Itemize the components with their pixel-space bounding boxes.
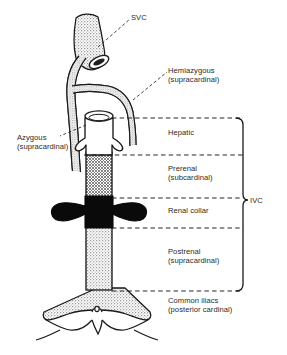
label-ivc: IVC [250, 196, 263, 205]
label-hemiazygous-line1: Hemiazygous [168, 66, 219, 75]
label-hemiazygous-line2: (supracardinal) [168, 75, 219, 84]
label-azygous-line2: (supracardinal) [17, 142, 68, 151]
label-common-iliacs-line2: (posterior cardinal) [168, 305, 232, 314]
label-svc: SVC [131, 13, 147, 22]
prerenal-segment [86, 152, 112, 198]
postrenal-segment [86, 222, 112, 290]
label-azygous: Azygous (supracardinal) [17, 133, 68, 152]
common-iliacs-segment [36, 288, 158, 340]
label-svc-line1: SVC [131, 13, 147, 22]
label-prerenal: Prerenal (subcardinal) [168, 164, 213, 183]
label-common-iliacs-line1: Common iliacs [168, 296, 232, 305]
label-common-iliacs: Common iliacs (posterior cardinal) [168, 296, 232, 315]
hepatic-segment [75, 111, 122, 155]
renal-collar-segment [51, 196, 146, 228]
label-hepatic-line1: Hepatic [168, 128, 194, 137]
label-ivc-line1: IVC [250, 196, 263, 205]
label-renal-collar: Renal collar [168, 206, 209, 215]
label-postrenal-line2: (supracardinal) [168, 256, 219, 265]
leader-hemiazygous [133, 72, 167, 100]
label-hemiazygous: Hemiazygous (supracardinal) [168, 66, 219, 85]
label-prerenal-line1: Prerenal [168, 164, 213, 173]
label-postrenal-line1: Postrenal [168, 247, 219, 256]
label-postrenal: Postrenal (supracardinal) [168, 247, 219, 266]
ivc-bracket [236, 118, 248, 291]
label-azygous-line1: Azygous [17, 133, 68, 142]
label-hepatic: Hepatic [168, 128, 194, 137]
ivc-development-diagram [0, 0, 287, 355]
label-prerenal-line2: (subcardinal) [168, 173, 213, 182]
leader-svc [98, 19, 130, 47]
label-renal-collar-line1: Renal collar [168, 206, 209, 215]
azygous-vessel [67, 56, 86, 172]
